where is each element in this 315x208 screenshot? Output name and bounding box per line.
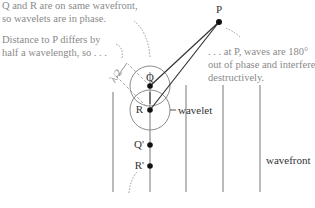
wavefront-lines [113, 72, 260, 192]
label-wavelet: wavelet [178, 104, 212, 116]
point-r-prime-dot [147, 163, 153, 169]
top-note-line1: Q and R are on same wavefront, [2, 0, 138, 11]
right-note-line1: . . . at P, waves are 180° [208, 46, 308, 57]
point-p-dot [216, 19, 222, 25]
label-q: Q [146, 71, 154, 83]
arrow-right-note [225, 28, 240, 37]
arrow-bottom [129, 172, 137, 193]
huygens-diagram: P Q R Q' R' wavelet wavefront λ/2 Q and … [0, 0, 315, 208]
arrow-mid-note [116, 44, 122, 58]
mid-note-line2: half a wavelength, so . . . [2, 47, 107, 58]
label-p: P [216, 3, 222, 15]
point-r-dot [147, 107, 153, 113]
label-r: R [136, 103, 144, 115]
label-r-prime: R' [135, 159, 144, 171]
right-note-line3: destructively. [208, 72, 264, 83]
label-wavefront: wavefront [266, 154, 311, 166]
right-note-line2: out of phase and interfere [208, 59, 315, 70]
top-note-line2: so wavelets are in phase. [2, 13, 106, 24]
arrow-top-note [134, 21, 150, 57]
point-q-dot [147, 83, 153, 89]
mid-note-line1: Distance to P differs by [2, 34, 101, 45]
point-q-prime-dot [147, 142, 153, 148]
label-q-prime: Q' [134, 138, 144, 150]
